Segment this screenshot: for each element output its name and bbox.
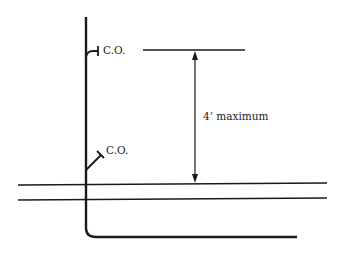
lower-cleanout-label: C.O.: [106, 145, 128, 156]
upper-cleanout-branch: [86, 51, 98, 57]
floor-line-lower: [18, 198, 327, 200]
dimension-label: 4’ maximum: [203, 111, 269, 122]
lower-cleanout-branch: [86, 155, 101, 170]
arrow-up-icon: [192, 51, 198, 60]
plumbing-cleanout-diagram: [0, 0, 351, 259]
arrow-down-icon: [192, 174, 198, 183]
upper-cleanout-label: C.O.: [103, 45, 125, 56]
floor-line-upper: [18, 183, 327, 185]
